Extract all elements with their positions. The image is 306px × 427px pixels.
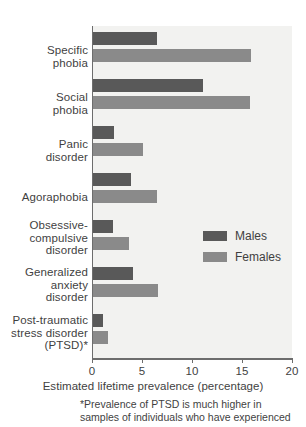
category-label-line: Specific — [0, 44, 88, 57]
bar-ptsd-males — [93, 314, 103, 327]
x-tick-5 — [142, 358, 143, 363]
x-tick-20 — [292, 358, 293, 363]
bar-ocd-males — [93, 220, 113, 233]
category-label-ocd: Obsessive- compulsive disorder — [0, 219, 88, 257]
legend-item-males: Males — [203, 229, 281, 243]
x-tick-15 — [242, 358, 243, 363]
category-label-line: Obsessive- — [0, 219, 88, 232]
bar-social-phobia-females — [93, 96, 250, 109]
bar-chart-figure: Specific phobia Social phobia Panic diso… — [0, 0, 306, 427]
category-label-line: Panic — [0, 138, 88, 151]
chart-legend: Males Females — [203, 229, 281, 271]
x-axis-title: Estimated lifetime prevalence (percentag… — [0, 380, 306, 392]
legend-label-males: Males — [235, 229, 267, 243]
category-label-line: (PTSD)* — [0, 339, 88, 352]
legend-label-females: Females — [235, 250, 281, 264]
footnote-line-2: samples of individuals who have experien… — [80, 411, 306, 424]
bar-agoraphobia-females — [93, 190, 157, 203]
x-tick-label-5: 5 — [139, 365, 145, 377]
footnote-line-1: *Prevalence of PTSD is much higher in — [80, 398, 306, 411]
x-tick-0 — [92, 358, 93, 363]
category-label-line: compulsive — [0, 232, 88, 245]
category-label-social-phobia: Social phobia — [0, 91, 88, 116]
category-label-line: anxiety — [0, 279, 88, 292]
category-label-line: disorder — [0, 151, 88, 164]
legend-item-females: Females — [203, 250, 281, 264]
category-label-specific-phobia: Specific phobia — [0, 44, 88, 69]
legend-swatch-females-icon — [203, 252, 227, 262]
category-label-line: phobia — [0, 104, 88, 117]
x-tick-10 — [192, 358, 193, 363]
x-tick-label-20: 20 — [286, 365, 299, 377]
legend-swatch-males-icon — [203, 231, 227, 241]
bar-panic-disorder-males — [93, 126, 114, 139]
category-label-line: disorder — [0, 244, 88, 257]
x-tick-label-0: 0 — [89, 365, 95, 377]
bar-ocd-females — [93, 237, 129, 250]
category-label-ptsd: Post-traumatic stress disorder (PTSD)* — [0, 314, 88, 352]
category-label-line: Generalized — [0, 266, 88, 279]
category-label-line: Social — [0, 91, 88, 104]
bar-agoraphobia-males — [93, 173, 131, 186]
category-label-line: stress disorder — [0, 327, 88, 340]
bar-ptsd-females — [93, 331, 108, 344]
plot-area — [92, 26, 292, 358]
category-label-gad: Generalized anxiety disorder — [0, 266, 88, 304]
category-label-agoraphobia: Agoraphobia — [0, 191, 88, 204]
x-tick-label-15: 15 — [236, 365, 249, 377]
chart-footnote: *Prevalence of PTSD is much higher in sa… — [80, 398, 306, 423]
bar-gad-females — [93, 284, 158, 297]
category-label-panic-disorder: Panic disorder — [0, 138, 88, 163]
category-label-line: Agoraphobia — [0, 191, 88, 204]
bar-panic-disorder-females — [93, 143, 143, 156]
bar-specific-phobia-females — [93, 49, 251, 62]
category-label-line: disorder — [0, 291, 88, 304]
bar-gad-males — [93, 267, 133, 280]
bar-social-phobia-males — [93, 79, 203, 92]
category-label-line: phobia — [0, 57, 88, 70]
x-tick-label-10: 10 — [186, 365, 199, 377]
bar-specific-phobia-males — [93, 32, 157, 45]
category-label-line: Post-traumatic — [0, 314, 88, 327]
category-axis-labels: Specific phobia Social phobia Panic diso… — [0, 26, 88, 358]
